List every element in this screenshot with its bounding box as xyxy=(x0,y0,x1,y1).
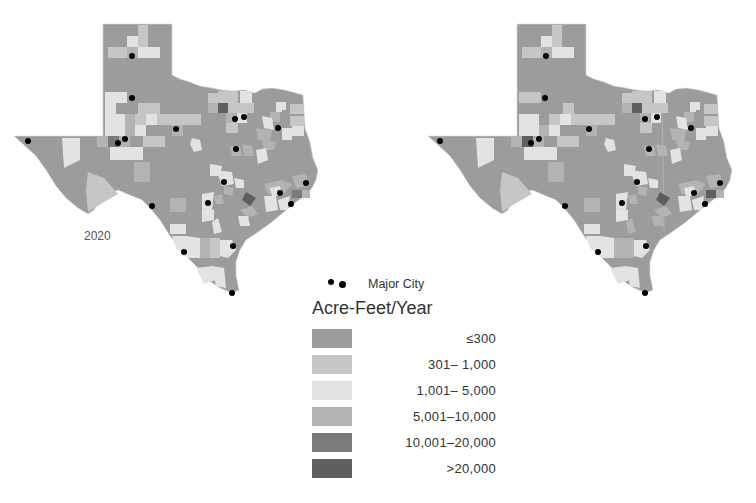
texas-shape xyxy=(14,24,318,293)
city-dot-icon xyxy=(205,200,211,206)
city-dot-icon xyxy=(173,126,179,132)
city-dot-icon xyxy=(528,140,534,146)
city-dot-icon xyxy=(586,126,592,132)
city-dot-icon xyxy=(275,125,281,131)
city-dot-icon xyxy=(654,114,660,120)
city-dot-icon xyxy=(129,53,135,59)
legend-class-4: 5,001–10,000 xyxy=(310,403,510,429)
swatch-icon xyxy=(312,433,352,452)
legend-range: 301– 1,000 xyxy=(352,357,496,372)
legend-class-5: 10,001–20,000 xyxy=(310,429,510,455)
city-dot-icon xyxy=(717,180,723,186)
city-dot-icon xyxy=(25,138,31,144)
city-dot-icon xyxy=(232,116,238,122)
city-dot-icon xyxy=(536,136,542,142)
legend-range: 10,001–20,000 xyxy=(352,435,496,450)
city-dot-icon xyxy=(115,140,121,146)
city-dot-icon xyxy=(702,201,708,207)
legend-class-3: 1,001– 5,000 xyxy=(310,377,510,403)
swatch-icon xyxy=(312,407,352,426)
legend-class-1: ≤300 xyxy=(310,325,510,351)
city-dot-icon xyxy=(122,136,128,142)
legend-class-2: 301– 1,000 xyxy=(310,351,510,377)
swatch-icon xyxy=(312,459,352,478)
city-dot-icon xyxy=(129,95,135,101)
city-dot-icon xyxy=(303,180,309,186)
city-dot-icon xyxy=(634,179,640,185)
city-dot-icon xyxy=(642,290,648,296)
city-dot-icon xyxy=(230,243,236,249)
swatch-icon xyxy=(312,381,352,400)
legend-city-label: Major City xyxy=(368,277,424,291)
texas-map-2040: 2040 xyxy=(416,0,756,300)
city-dot-icon xyxy=(642,116,648,122)
legend-major-city: Major City xyxy=(310,272,510,296)
city-dot-icon xyxy=(221,179,227,185)
year-label-2020: 2020 xyxy=(84,229,111,243)
texas-shape xyxy=(428,24,732,293)
texas-map-2020: 2020 xyxy=(0,0,340,300)
swatch-icon xyxy=(312,355,352,374)
city-dot-icon xyxy=(643,243,649,249)
city-dot-icon xyxy=(181,249,187,255)
swatch-icon xyxy=(312,329,352,348)
city-dot-icon xyxy=(241,114,247,120)
legend-range: 1,001– 5,000 xyxy=(352,383,496,398)
city-dot-icon xyxy=(149,203,155,209)
city-dot-icon xyxy=(233,146,239,152)
city-dot-icon xyxy=(229,290,235,296)
city-dot-icon xyxy=(339,281,346,288)
legend-class-6: >20,000 xyxy=(310,455,510,481)
city-dot-icon xyxy=(688,125,694,131)
city-dot-icon xyxy=(288,201,294,207)
legend-range: >20,000 xyxy=(352,461,496,476)
city-dot-icon xyxy=(595,249,601,255)
city-dot-icon xyxy=(619,200,625,206)
map-canvas-2020 xyxy=(0,0,340,300)
city-dot-icon xyxy=(646,146,652,152)
city-dot-icon xyxy=(543,53,549,59)
legend-title: Acre-Feet/Year xyxy=(312,298,510,319)
map-legend: Major City Acre-Feet/Year ≤300 301– 1,00… xyxy=(310,272,510,481)
legend-range: ≤300 xyxy=(352,331,496,346)
map-canvas-2040 xyxy=(416,0,756,300)
city-dot-icon xyxy=(277,190,283,196)
legend-range: 5,001–10,000 xyxy=(352,409,496,424)
city-dot-icon xyxy=(691,190,697,196)
city-dot-icon xyxy=(437,138,443,144)
city-dot-icon xyxy=(562,203,568,209)
city-dot-icon xyxy=(542,95,548,101)
